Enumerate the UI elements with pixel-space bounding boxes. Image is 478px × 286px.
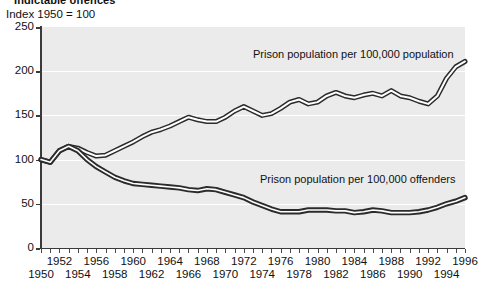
- series-line-fill: [41, 61, 465, 162]
- annotation-upper-series: Prison population per 100,000 population: [253, 48, 454, 60]
- annotation-lower-series: Prison population per 100,000 offenders: [260, 173, 456, 185]
